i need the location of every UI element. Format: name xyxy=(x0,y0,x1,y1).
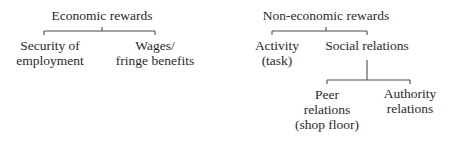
node-label: Economic rewards xyxy=(52,8,153,23)
node-label-line: fringe benefits xyxy=(116,53,194,68)
node-label-line: relations xyxy=(295,102,359,117)
social-relations-node: Social relations xyxy=(325,38,409,53)
non-economic-rewards-node: Non-economic rewards xyxy=(263,8,389,23)
activity-task-node: Activity (task) xyxy=(255,38,299,68)
node-label-line: (shop floor) xyxy=(295,117,359,132)
node-label-line: Security of xyxy=(16,38,84,53)
authority-relations-node: Authority relations xyxy=(384,86,437,116)
security-of-employment-node: Security of employment xyxy=(16,38,84,68)
node-label-line: (task) xyxy=(255,53,299,68)
wages-fringe-benefits-node: Wages/ fringe benefits xyxy=(116,38,194,68)
node-label-line: relations xyxy=(384,101,437,116)
node-label-line: Wages/ xyxy=(116,38,194,53)
node-label-line: Activity xyxy=(255,38,299,53)
node-label-line: Authority xyxy=(384,86,437,101)
peer-relations-node: Peer relations (shop floor) xyxy=(295,87,359,132)
node-label: Non-economic rewards xyxy=(263,8,389,23)
economic-rewards-node: Economic rewards xyxy=(52,8,153,23)
node-label-line: Social relations xyxy=(325,38,409,53)
node-label-line: employment xyxy=(16,53,84,68)
node-label-line: Peer xyxy=(295,87,359,102)
